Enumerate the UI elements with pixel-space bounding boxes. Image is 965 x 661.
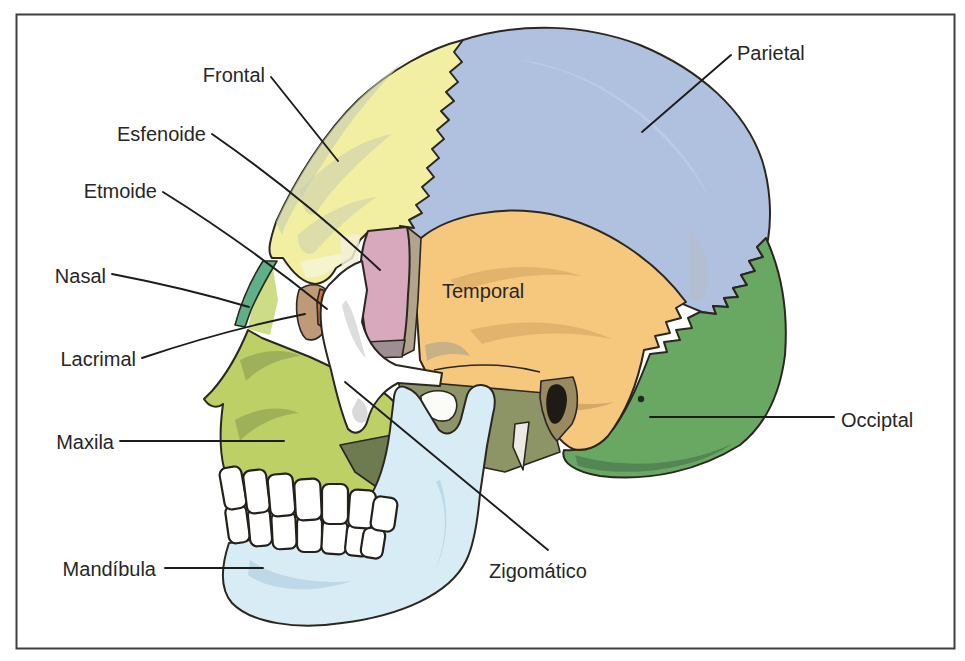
occiptal-label: Occiptal — [841, 409, 913, 431]
parietal-label: Parietal — [737, 42, 805, 64]
skull-illustration — [204, 28, 786, 626]
tooth — [243, 469, 271, 514]
tooth — [297, 516, 322, 552]
frontal-leader-line — [271, 77, 338, 161]
mandibula-label: Mandíbula — [63, 558, 157, 580]
nasal-label: Nasal — [55, 265, 106, 287]
esfenoide-label: Esfenoide — [117, 123, 206, 145]
maxila-label: Maxila — [56, 431, 115, 453]
tooth — [370, 495, 398, 532]
skull-diagram: Frontal Esfenoide Etmoide Nasal Lacrimal… — [0, 0, 965, 661]
tooth — [267, 473, 296, 517]
etmoide-label: Etmoide — [84, 180, 157, 202]
frontal-label: Frontal — [203, 64, 265, 86]
tooth — [294, 478, 322, 520]
zigomatico-label: Zigomático — [489, 560, 587, 582]
nasal-leader-line — [112, 274, 249, 307]
lacrimal-label: Lacrimal — [60, 348, 136, 370]
temporal-label: Temporal — [442, 280, 524, 302]
temporal-foramen-mark — [638, 396, 644, 402]
figure-page: Frontal Esfenoide Etmoide Nasal Lacrimal… — [0, 0, 965, 661]
tooth — [322, 484, 348, 524]
